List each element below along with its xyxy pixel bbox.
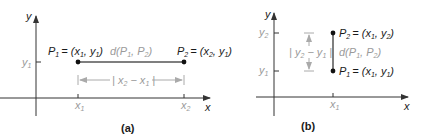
distance-formula-figure: y x y1 x1 x2 P1= (x1, y1) P2= (x2, y1) d… [0, 0, 424, 140]
panel-a: y x y1 x1 x2 P1= (x1, y1) P2= (x2, y1) d… [0, 10, 232, 134]
x1-tick-label: x1 [329, 98, 340, 111]
y1-tick-label: y1 [258, 64, 269, 77]
distance-label: d(P1, P2) [110, 45, 152, 58]
x-axis-label: x [204, 101, 211, 113]
panel-b: y x y2 y1 x1 P2= (x1, y2) P1= (x1, y1) d… [256, 8, 410, 132]
y-axis-label: y [264, 8, 272, 20]
vertical-measure-label: | y2 − y1 | [289, 46, 332, 59]
point-p2 [182, 60, 187, 65]
distance-label: d(P1, P2) [339, 46, 381, 59]
caption-b: (b) [301, 120, 315, 132]
point-p1 [331, 69, 336, 74]
p2-label: P2= (x1, y2) [339, 27, 394, 40]
x1-tick-label: x1 [74, 99, 85, 112]
x-axis-label: x [403, 100, 410, 112]
horizontal-measure-label: | x2 − x1 | [112, 74, 155, 87]
point-p2 [331, 31, 336, 36]
p1-label: P1= (x1, y1) [48, 45, 103, 58]
x2-tick-label: x2 [180, 99, 191, 112]
p1-label: P1= (x1, y1) [339, 65, 394, 78]
y1-tick-label: y1 [21, 56, 32, 69]
p2-label: P2= (x2, y1) [177, 45, 232, 58]
y2-tick-label: y2 [258, 26, 269, 39]
point-p1 [76, 60, 81, 65]
caption-a: (a) [121, 122, 135, 134]
y-axis-label: y [25, 10, 33, 22]
